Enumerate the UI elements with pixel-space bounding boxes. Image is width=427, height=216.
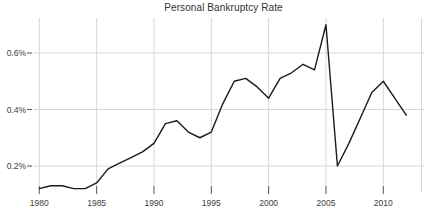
bankruptcy-rate-series-line — [39, 25, 406, 189]
line-chart-canvas: 0.2%0.4%0.6%1980198519901995200020052010 — [0, 0, 427, 216]
x-tick-label: 1990 — [145, 198, 164, 208]
y-tick-label: 0.6% — [7, 48, 27, 58]
y-tick-label: 0.2% — [7, 161, 27, 171]
x-tick-label: 1985 — [87, 198, 106, 208]
chart-title: Personal Bankruptcy Rate — [31, 2, 416, 13]
x-tick-label: 1995 — [202, 198, 221, 208]
bankruptcy-rate-chart: Personal Bankruptcy Rate 0.2%0.4%0.6%198… — [0, 0, 427, 216]
x-tick-label: 1980 — [30, 198, 49, 208]
x-tick-label: 2005 — [317, 198, 336, 208]
x-tick-label: 2010 — [374, 198, 393, 208]
x-tick-label: 2000 — [259, 198, 278, 208]
y-tick-label: 0.4% — [7, 105, 27, 115]
chart-window: Personal Bankruptcy Rate 0.2%0.4%0.6%198… — [0, 0, 427, 216]
